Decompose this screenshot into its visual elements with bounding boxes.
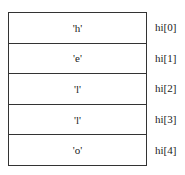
array-cell-0: 'h'	[9, 13, 146, 44]
array-cell-3: 'l'	[9, 105, 146, 136]
index-label-4: hi[4]	[155, 134, 176, 165]
index-label-3: hi[3]	[155, 104, 176, 135]
array-cell-4: 'o'	[9, 135, 146, 166]
index-label-0: hi[0]	[155, 12, 176, 43]
char-array-diagram: 'h' 'e' 'l' 'l' 'o'	[8, 12, 147, 166]
array-cell-1: 'e'	[9, 44, 146, 75]
array-cell-2: 'l'	[9, 74, 146, 105]
index-labels: hi[0] hi[1] hi[2] hi[3] hi[4]	[155, 12, 176, 165]
index-label-2: hi[2]	[155, 73, 176, 104]
index-label-1: hi[1]	[155, 43, 176, 74]
